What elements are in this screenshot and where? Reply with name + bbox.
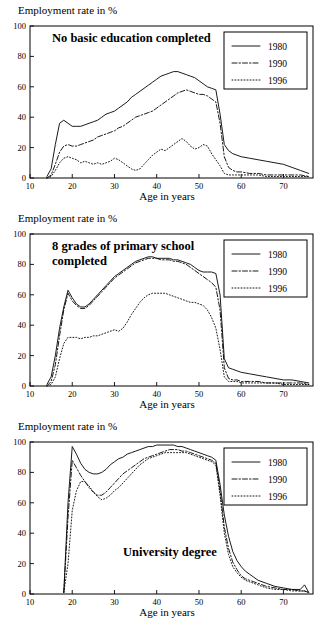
x-tick-label: 70 (279, 597, 288, 607)
x-tick-label: 60 (237, 597, 246, 607)
chart-title: 8 grades of primary school (52, 239, 195, 253)
y-axis-title: Employment rate in % (18, 4, 117, 16)
legend-label-1980: 1980 (268, 42, 287, 52)
y-tick-label: 80 (18, 467, 27, 477)
y-tick-label: 20 (18, 143, 27, 153)
line-chart-primary-school: 020406080100102030405060701980199019968 … (0, 226, 334, 404)
x-tick-label: 30 (110, 389, 119, 399)
chart-panel-university-degree: Employment rate in % Age in years 020406… (0, 416, 334, 624)
x-tick-label: 40 (152, 389, 161, 399)
chart-panel-no-basic-education: Employment rate in % Age in years 020406… (0, 0, 334, 208)
legend-label-1990: 1990 (268, 59, 287, 69)
legend-label-1996: 1996 (268, 492, 287, 502)
x-tick-label: 50 (195, 181, 204, 191)
x-tick-label: 10 (26, 389, 35, 399)
y-tick-label: 40 (18, 528, 27, 538)
chart-panel-primary-school: Employment rate in % Age in years 020406… (0, 208, 334, 416)
y-tick-label: 100 (13, 21, 26, 31)
y-tick-label: 40 (18, 112, 27, 122)
x-tick-label: 20 (68, 389, 77, 399)
legend-label-1980: 1980 (268, 458, 287, 468)
y-axis-title: Employment rate in % (18, 420, 117, 432)
series-line-1996 (47, 138, 309, 178)
x-tick-label: 20 (68, 597, 77, 607)
y-tick-label: 80 (18, 259, 27, 269)
y-tick-label: 100 (13, 229, 26, 239)
x-tick-label: 70 (279, 181, 288, 191)
x-tick-label: 20 (68, 181, 77, 191)
x-tick-label: 60 (237, 181, 246, 191)
legend: 198019901996 (224, 240, 307, 297)
y-axis-title: Employment rate in % (18, 212, 117, 224)
x-tick-label: 50 (195, 597, 204, 607)
line-chart-university-degree: 02040608010010203040506070198019901996Un… (0, 434, 334, 612)
legend-label-1996: 1996 (268, 76, 287, 86)
x-tick-label: 10 (26, 597, 35, 607)
y-tick-label: 20 (18, 351, 27, 361)
x-tick-label: 10 (26, 181, 35, 191)
y-tick-label: 20 (18, 559, 27, 569)
y-tick-label: 80 (18, 51, 27, 61)
y-tick-label: 40 (18, 320, 27, 330)
x-tick-label: 40 (152, 597, 161, 607)
legend: 198019901996 (224, 32, 307, 89)
legend: 198019901996 (224, 448, 307, 505)
y-tick-label: 100 (13, 437, 26, 447)
chart-title: University degree (123, 545, 217, 559)
series-line-1990 (47, 90, 309, 178)
y-tick-label: 60 (18, 498, 27, 508)
x-tick-label: 30 (110, 597, 119, 607)
legend-label-1996: 1996 (268, 284, 287, 294)
x-tick-label: 60 (237, 389, 246, 399)
y-tick-label: 60 (18, 290, 27, 300)
legend-label-1990: 1990 (268, 475, 287, 485)
legend-label-1980: 1980 (268, 250, 287, 260)
chart-title: completed (52, 254, 107, 268)
chart-title: No basic education completed (52, 31, 211, 45)
figure-container: Employment rate in % Age in years 020406… (0, 0, 334, 626)
x-tick-label: 50 (195, 389, 204, 399)
x-tick-label: 30 (110, 181, 119, 191)
x-tick-label: 40 (152, 181, 161, 191)
y-tick-label: 60 (18, 82, 27, 92)
line-chart-no-basic-education: 02040608010010203040506070198019901996No… (0, 18, 334, 196)
x-tick-label: 70 (279, 389, 288, 399)
legend-label-1990: 1990 (268, 267, 287, 277)
